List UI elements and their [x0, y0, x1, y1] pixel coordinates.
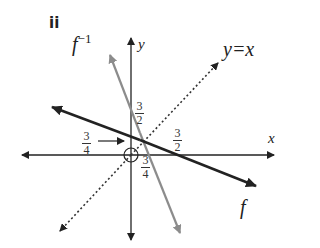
- f-inverse-y-intercept-label: 32: [135, 101, 144, 126]
- f-inverse-label-sup: −1: [78, 31, 92, 46]
- x-axis-label: x: [268, 130, 275, 147]
- f-label: f: [240, 196, 246, 219]
- y-axis-label: y: [138, 36, 145, 53]
- f-y-intercept-label: 34: [82, 131, 91, 156]
- f-inverse-label: f−1: [72, 31, 91, 56]
- identity-label: y=x: [223, 38, 254, 61]
- f-x-intercept-label: 32: [173, 128, 182, 153]
- part-label: ii: [49, 14, 59, 32]
- f-inverse-line: [110, 55, 180, 233]
- f-inverse-x-intercept-label: 34: [141, 155, 150, 180]
